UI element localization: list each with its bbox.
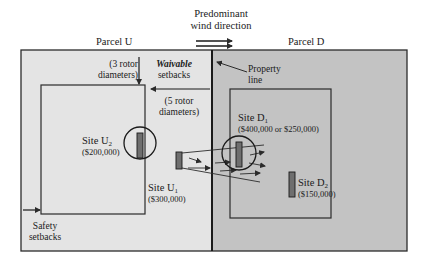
waivable-line2: setbacks bbox=[144, 70, 204, 81]
side-setback-distance-label: (5 rotor diameters) bbox=[150, 96, 208, 118]
site-d1-value: ($400,000 or $250,000) bbox=[238, 124, 319, 135]
safety-line1: Safety bbox=[22, 221, 68, 232]
site-d1-name: Site D bbox=[238, 112, 265, 123]
site-u2-name: Site U bbox=[82, 135, 109, 146]
site-u2-turbine bbox=[137, 133, 143, 158]
parcel-u-label: Parcel U bbox=[96, 36, 132, 48]
property-line-label-1: Property bbox=[248, 64, 281, 75]
waivable-line1: Waivable bbox=[144, 59, 204, 70]
parcel-d-label: Parcel D bbox=[288, 36, 324, 48]
property-line-label: Property line bbox=[248, 64, 281, 86]
site-u2-label: Site U2 ($200,000) bbox=[82, 135, 120, 158]
site-u1-name: Site U bbox=[148, 182, 175, 193]
wind-direction-arrows bbox=[196, 41, 232, 46]
site-u1-label: Site U1 ($300,000) bbox=[148, 182, 186, 205]
side-setback-line2: diameters) bbox=[150, 107, 208, 118]
property-line-label-2: line bbox=[248, 75, 281, 86]
top-setback-line2: diameters) bbox=[86, 70, 138, 81]
site-u1-value: ($300,000) bbox=[148, 194, 186, 205]
site-d2-name: Site D bbox=[298, 177, 325, 188]
wind-label-line1: Predominant bbox=[176, 8, 266, 20]
wind-label-line2: wind direction bbox=[176, 20, 266, 32]
safety-line2: setbacks bbox=[22, 232, 68, 243]
site-d1-turbine bbox=[236, 142, 242, 167]
top-setback-distance-label: (3 rotor diameters) bbox=[86, 59, 138, 81]
wind-direction-label: Predominant wind direction bbox=[176, 8, 266, 32]
safety-setbacks-label: Safety setbacks bbox=[22, 221, 68, 243]
site-u2-value: ($200,000) bbox=[82, 147, 120, 158]
site-d1-label: Site D1 ($400,000 or $250,000) bbox=[238, 112, 319, 135]
top-setback-line1: (3 rotor bbox=[86, 59, 138, 70]
site-d2-label: Site D2 ($150,000) bbox=[298, 177, 336, 200]
site-d2-turbine bbox=[289, 172, 295, 197]
site-u1-turbine bbox=[176, 152, 182, 169]
side-setback-line1: (5 rotor bbox=[150, 96, 208, 107]
waivable-setbacks-label: Waivable setbacks bbox=[144, 59, 204, 81]
site-d2-value: ($150,000) bbox=[298, 189, 336, 200]
